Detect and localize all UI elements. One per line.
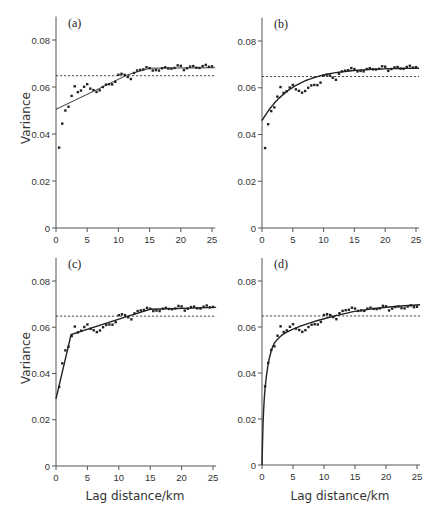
data-point xyxy=(196,307,198,309)
data-point xyxy=(316,84,318,86)
data-point xyxy=(397,305,399,307)
data-point xyxy=(307,87,309,89)
data-point xyxy=(162,308,164,310)
data-point xyxy=(301,331,303,333)
data-point xyxy=(310,84,312,86)
data-point xyxy=(344,69,346,71)
x-tick-label: 15 xyxy=(145,472,156,483)
data-point xyxy=(279,86,281,88)
data-point xyxy=(105,324,107,326)
x-tick-label: 5 xyxy=(85,472,90,483)
data-point xyxy=(208,66,210,68)
panel-label: (c) xyxy=(68,257,81,271)
data-point xyxy=(394,306,396,308)
data-point xyxy=(152,69,154,71)
data-point xyxy=(120,73,122,75)
data-point xyxy=(292,323,294,325)
data-point xyxy=(338,312,340,314)
data-point xyxy=(407,305,409,307)
data-point xyxy=(356,70,358,72)
data-point xyxy=(180,305,182,307)
fitted-model-curve xyxy=(262,305,420,465)
data-point xyxy=(83,326,85,328)
data-point xyxy=(351,306,353,308)
data-point xyxy=(114,81,116,83)
data-point xyxy=(89,328,91,330)
x-tick-label: 15 xyxy=(349,234,360,245)
data-point xyxy=(139,69,141,71)
y-tick-label: 0 xyxy=(251,223,256,234)
data-point xyxy=(335,79,337,81)
data-point xyxy=(282,92,284,94)
data-point xyxy=(161,67,163,69)
data-point xyxy=(319,81,321,83)
data-point xyxy=(189,65,191,67)
data-point xyxy=(326,313,328,315)
data-point xyxy=(174,307,176,309)
data-point xyxy=(80,89,82,91)
data-point xyxy=(354,307,356,309)
data-point xyxy=(108,323,110,325)
y-axis-title-top: Variance xyxy=(19,92,33,144)
data-point xyxy=(363,310,365,312)
y-tick-label: 0.08 xyxy=(32,35,51,46)
y-tick-label: 0 xyxy=(45,461,50,472)
data-point xyxy=(285,90,287,92)
data-point xyxy=(335,318,337,320)
data-point xyxy=(136,69,138,71)
data-point xyxy=(267,362,269,364)
data-point xyxy=(209,306,211,308)
data-point xyxy=(388,309,390,311)
x-tick-label: 20 xyxy=(176,234,187,245)
data-point xyxy=(105,83,107,85)
data-point xyxy=(270,349,272,351)
data-point xyxy=(180,65,182,67)
data-point xyxy=(111,83,113,85)
data-point xyxy=(136,310,138,312)
data-point xyxy=(289,86,291,88)
data-point xyxy=(206,304,208,306)
data-point xyxy=(146,307,148,309)
x-tick-label: 0 xyxy=(53,234,58,245)
panel-b: 00.020.040.060.080510152025(b) xyxy=(238,17,422,245)
data-point xyxy=(130,318,132,320)
data-point xyxy=(173,67,175,69)
data-point xyxy=(124,314,126,316)
data-point xyxy=(142,68,144,70)
y-tick-label: 0.02 xyxy=(238,414,257,425)
data-point xyxy=(117,74,119,76)
data-point xyxy=(186,67,188,69)
data-point xyxy=(276,95,278,97)
data-point xyxy=(121,313,123,315)
x-tick-label: 5 xyxy=(85,234,90,245)
y-tick-label: 0.04 xyxy=(238,129,257,140)
x-tick-label: 15 xyxy=(144,234,155,245)
x-tick-label: 20 xyxy=(381,471,392,482)
data-point xyxy=(376,308,378,310)
data-point xyxy=(86,83,88,85)
data-point xyxy=(89,87,91,89)
data-point xyxy=(158,310,160,312)
data-point xyxy=(70,95,72,97)
data-point xyxy=(283,331,285,333)
data-point xyxy=(276,335,278,337)
data-point xyxy=(264,147,266,149)
x-tick-label: 10 xyxy=(318,234,329,245)
data-point xyxy=(400,307,402,309)
data-point xyxy=(164,66,166,68)
data-point xyxy=(98,89,100,91)
x-tick-label: 5 xyxy=(290,471,295,482)
data-point xyxy=(270,110,272,112)
data-point xyxy=(198,67,200,69)
data-point xyxy=(403,307,405,309)
panel-label: (d) xyxy=(274,257,288,271)
data-point xyxy=(348,309,350,311)
data-point xyxy=(86,323,88,325)
data-point xyxy=(195,67,197,69)
data-point xyxy=(123,74,125,76)
x-tick-label: 10 xyxy=(113,234,124,245)
data-point xyxy=(362,70,364,72)
data-point xyxy=(77,331,79,333)
panel-a: 00.020.040.060.080510152025(a) xyxy=(32,16,218,245)
data-point xyxy=(267,123,269,125)
